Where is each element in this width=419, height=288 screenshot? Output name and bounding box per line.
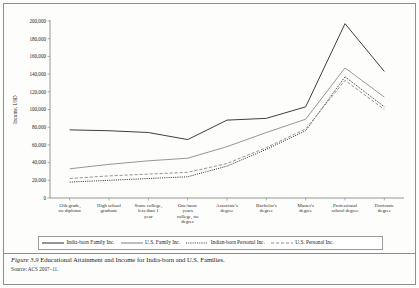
x-tick-label-group: One/moreyearscollege, nodegree [177,203,199,225]
legend-item-4: U.S. Personal Inc. [271,240,334,246]
x-tick-label: year [144,214,153,219]
figure-number: Figure 3.9 [11,256,39,263]
legend-item-3: Indian-born Personal Inc. [186,240,264,246]
y-tick-label: 200,000 [29,18,46,24]
y-tick-label: 160,000 [29,53,46,59]
x-tick-label-group: Associate'sdegree [216,203,238,214]
x-tick-label: Bachelor's [256,203,277,208]
x-tick-label: less than 1 [138,208,159,213]
x-tick-label-group: Master'sdegree [297,203,313,214]
line-chart: 020,00040,00060,00080,000100,000120,0001… [6,6,410,251]
legend-label-1: India-born Family Inc. [67,240,115,245]
x-tick-label: degree [181,219,194,224]
x-tick-label: degree [260,208,273,213]
x-tick-label-group: 12th grade,no diploma [59,203,82,214]
chart-legend: India-born Family Inc.U.S. Family Inc.In… [38,236,383,250]
x-tick-label: no diploma [59,208,82,213]
x-tick-label-group: Some college,less than 1year [134,203,162,219]
x-tick-label: One/more [178,203,198,208]
y-tick-label: 40,000 [32,159,46,165]
x-tick-label: High school [97,203,121,208]
x-tick-label: degree [378,208,391,213]
series-line-1 [70,24,385,140]
x-tick-label: graduate [101,208,118,213]
y-tick-label: 180,000 [29,36,46,42]
legend-item-1: India-born Family Inc. [42,240,115,246]
legend-swatch-4 [271,240,293,246]
legend-label-2: U.S. Family Inc. [145,240,180,245]
caption-divider [3,253,416,254]
legend-swatch-3 [186,240,208,246]
y-axis-title: Income, USD [12,95,18,124]
legend-item-2: U.S. Family Inc. [121,240,181,246]
legend-label-3: Indian-born Personal Inc. [211,240,265,245]
figure-container: 020,00040,00060,00080,000100,000120,0001… [0,0,419,288]
chart-canvas: 020,00040,00060,00080,000100,000120,0001… [6,6,410,251]
caption-text: Figure 3.9 Educational Attainment and In… [11,256,409,265]
x-tick-label: Master's [297,203,313,208]
x-tick-label-group: Doctoratedegree [375,203,394,214]
x-tick-label: degree [220,208,233,213]
x-tick-label: degree [299,208,312,213]
figure-title: Educational Attainment and Income for In… [40,256,224,263]
figure-caption: Figure 3.9 Educational Attainment and In… [11,256,409,272]
x-tick-label-group: Bachelor'sdegree [256,203,277,214]
y-tick-label: 140,000 [29,71,46,77]
x-tick-label: Doctorate [375,203,394,208]
legend-swatch-1 [42,240,64,246]
y-tick-label: 120,000 [29,89,46,95]
y-tick-label: 100,000 [29,106,46,112]
x-tick-label-group: High schoolgraduate [97,203,121,214]
y-tick-label: 80,000 [32,124,46,130]
y-tick-label: 0 [43,195,46,201]
legend-label-4: U.S. Personal Inc. [295,240,333,245]
y-tick-label: 60,000 [32,142,46,148]
x-tick-label: Professional [333,203,358,208]
y-tick-label: 20,000 [32,177,46,183]
x-tick-label-group: Professionalschool degree [331,203,358,214]
legend-swatch-2 [121,240,143,246]
figure-source: Source: ACS 2007–11. [11,266,409,272]
x-tick-label: Associate's [216,203,238,208]
x-tick-label: years [183,208,193,213]
x-tick-label: school degree [331,208,358,213]
series-line-2 [70,68,385,169]
series-line-3 [70,77,385,182]
